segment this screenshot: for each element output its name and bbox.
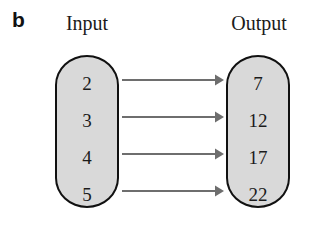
- arrow-right-icon: [215, 149, 224, 160]
- output-set-values: 7 12 17 22: [228, 57, 288, 206]
- arrow-right-icon: [215, 112, 224, 123]
- arrow-right-icon: [215, 75, 224, 86]
- arrow-right-icon: [215, 186, 224, 197]
- mapping-arrow-3: [122, 149, 224, 160]
- input-column-heading: Input: [55, 11, 119, 35]
- input-value-1: 2: [57, 74, 117, 94]
- mapping-arrow-4: [122, 186, 224, 197]
- output-value-2: 12: [228, 111, 288, 131]
- mapping-arrow-2: [122, 112, 224, 123]
- figure-canvas: b Input Output 2 3 4 5 7 12 17 22: [0, 0, 310, 229]
- output-column-heading: Output: [226, 11, 292, 35]
- output-value-3: 17: [228, 148, 288, 168]
- input-value-2: 3: [57, 111, 117, 131]
- output-set-box: 7 12 17 22: [226, 55, 290, 208]
- input-value-3: 4: [57, 148, 117, 168]
- mapping-arrow-1: [122, 75, 224, 86]
- output-value-1: 7: [228, 74, 288, 94]
- input-set-values: 2 3 4 5: [57, 57, 117, 206]
- input-value-4: 5: [57, 185, 117, 205]
- output-value-4: 22: [228, 185, 288, 205]
- input-set-box: 2 3 4 5: [55, 55, 119, 208]
- panel-label: b: [12, 9, 24, 31]
